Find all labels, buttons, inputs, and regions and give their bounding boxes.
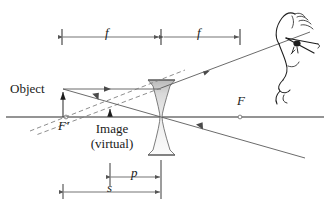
ray-parallel-incident [63,86,161,91]
ray-lower-to-eye [63,112,161,117]
dimension-f-left-label: f [105,26,109,40]
diagram-canvas [0,0,330,204]
eye-profile-drawing [276,13,320,104]
ray-parallel-refracted [161,32,310,88]
focal-point-right-marker [238,115,242,119]
dimension-f-right-label: f [197,26,201,40]
dimension-s-label: s [107,181,112,195]
focal-right-label: F [237,94,245,108]
optics-diagram-figure: Object F' F Image (virtual) f f p s [0,0,330,204]
dimension-f-left [62,29,161,45]
focal-left-label: F' [58,119,69,133]
image-label-line1: Image [83,122,141,136]
dimension-f-right [164,29,240,45]
object-label: Object [10,82,45,96]
image-label-line2: (virtual) [83,137,141,151]
dimension-p-label: p [131,166,138,180]
